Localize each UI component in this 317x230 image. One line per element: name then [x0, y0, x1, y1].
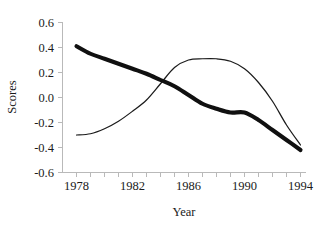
line-chart: 0.6 0.4 0.2 0.0 -0.2 -0.4 -0.6	[0, 0, 317, 230]
series-group	[77, 46, 301, 150]
x-axis-title: Year	[172, 205, 196, 219]
x-axis-ticks	[77, 173, 301, 178]
chart-container: 0.6 0.4 0.2 0.0 -0.2 -0.4 -0.6	[0, 0, 317, 230]
x-tick-label: 1990	[232, 179, 257, 193]
thin-line-series	[77, 59, 301, 145]
y-axis-ticks	[58, 23, 63, 173]
x-tick-label: 1986	[176, 179, 201, 193]
x-axis-tick-labels: 1978 1982 1986 1990 1994	[64, 179, 314, 193]
thick-line-series	[77, 46, 301, 150]
y-tick-label: 0.0	[38, 91, 54, 105]
x-tick-label: 1982	[120, 179, 145, 193]
y-axis-tick-labels: 0.6 0.4 0.2 0.0 -0.2 -0.4 -0.6	[34, 16, 55, 180]
y-axis-title: Scores	[5, 80, 19, 113]
y-tick-label: 0.4	[38, 41, 54, 55]
y-tick-label: 0.2	[38, 66, 54, 80]
y-tick-label: 0.6	[38, 16, 54, 30]
x-tick-label: 1978	[64, 179, 89, 193]
y-tick-label: -0.6	[34, 166, 54, 180]
x-tick-label: 1994	[288, 179, 314, 193]
y-tick-label: -0.4	[34, 141, 55, 155]
y-tick-label: -0.2	[34, 116, 54, 130]
